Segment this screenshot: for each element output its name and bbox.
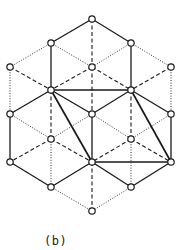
lattice-node bbox=[89, 16, 95, 22]
lattice-node bbox=[168, 111, 174, 117]
lattice-node bbox=[7, 159, 13, 165]
edge-solid bbox=[51, 19, 92, 43]
lattice-node bbox=[48, 40, 54, 46]
edge-thick bbox=[131, 90, 171, 162]
lattice-node bbox=[48, 87, 54, 93]
edge-solid bbox=[10, 90, 51, 114]
lattice-node bbox=[168, 64, 174, 70]
lattice-node bbox=[7, 64, 13, 70]
edge-solid bbox=[51, 162, 92, 187]
edge-dotted bbox=[51, 43, 92, 67]
edge-solid bbox=[92, 19, 131, 43]
edge-dotted bbox=[131, 43, 171, 67]
lattice-node bbox=[89, 159, 95, 165]
edge-dashed bbox=[92, 139, 131, 162]
edge-dotted bbox=[10, 43, 51, 67]
edge-dashed bbox=[92, 67, 131, 90]
edge-solid bbox=[92, 90, 131, 114]
lattice-node bbox=[128, 184, 134, 190]
edge-dotted bbox=[92, 187, 131, 211]
edge-solid bbox=[131, 162, 171, 187]
lattice-node bbox=[48, 184, 54, 190]
lattice-node bbox=[89, 111, 95, 117]
edge-solid bbox=[10, 162, 51, 187]
lattice-nodes bbox=[7, 16, 174, 214]
edge-dotted bbox=[131, 114, 171, 139]
edge-dotted bbox=[51, 187, 92, 211]
lattice-node bbox=[89, 64, 95, 70]
figure-caption: (b) bbox=[44, 234, 67, 248]
edge-dotted bbox=[92, 43, 131, 67]
edge-dashed bbox=[10, 139, 51, 162]
edge-dashed bbox=[51, 67, 92, 90]
edge-dotted bbox=[10, 114, 51, 139]
edge-dashed bbox=[10, 67, 51, 90]
edge-dotted bbox=[51, 114, 92, 139]
lattice-node bbox=[168, 159, 174, 165]
edge-dashed bbox=[131, 67, 171, 90]
lattice-node bbox=[128, 87, 134, 93]
lattice-node bbox=[128, 40, 134, 46]
edge-dotted bbox=[92, 114, 131, 139]
lattice-node bbox=[89, 208, 95, 214]
edge-solid bbox=[92, 162, 131, 187]
lattice-node bbox=[7, 111, 13, 117]
lattice-node bbox=[128, 136, 134, 142]
lattice-node bbox=[48, 136, 54, 142]
lattice-diagram bbox=[0, 0, 177, 250]
